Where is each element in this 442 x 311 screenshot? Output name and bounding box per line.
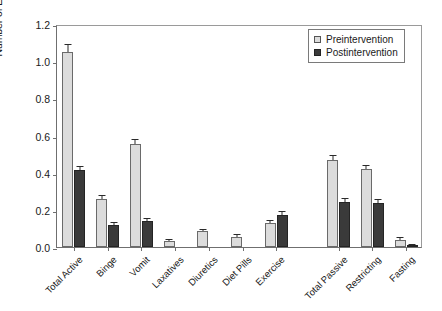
error-bar: [110, 222, 118, 225]
x-tick-mark: [108, 247, 109, 251]
chart-legend: Preintervention Postintervention: [308, 29, 405, 63]
error-bar: [98, 195, 106, 198]
y-tick-mark: [53, 212, 57, 213]
y-tick-mark: [53, 138, 57, 139]
y-tick-mark: [53, 26, 57, 27]
error-bar: [396, 237, 404, 239]
legend-swatch-preintervention-icon: [314, 36, 321, 43]
error-bar: [165, 239, 173, 241]
bar-post: [373, 203, 384, 247]
bar-pre: [231, 237, 242, 247]
bar-pre: [265, 223, 276, 247]
error-bar: [266, 220, 274, 223]
error-bar: [64, 44, 72, 52]
bar-pre: [395, 240, 406, 247]
x-tick-mark: [209, 247, 210, 251]
bar-post: [108, 225, 119, 247]
y-tick-label: 0.0: [10, 242, 50, 254]
bar-pre: [62, 52, 73, 247]
error-bar: [374, 199, 382, 204]
legend-label-postintervention: Postintervention: [326, 47, 398, 58]
bar-post: [339, 202, 350, 247]
x-tick-mark: [141, 247, 142, 251]
error-bar: [341, 198, 349, 202]
x-tick-mark: [243, 247, 244, 251]
legend-item-preintervention: Preintervention: [314, 33, 398, 46]
y-tick-label: 0.6: [10, 131, 50, 143]
error-bar: [278, 211, 286, 216]
bar-post: [142, 221, 153, 247]
x-tick-mark: [175, 247, 176, 251]
error-bar: [329, 155, 337, 160]
error-bar: [233, 234, 241, 236]
y-tick-label: 1.0: [10, 56, 50, 68]
bar-pre: [130, 144, 141, 247]
y-tick-label: 0.2: [10, 205, 50, 217]
bar-pre: [164, 241, 175, 247]
bar-post: [277, 215, 288, 247]
y-tick-label: 0.8: [10, 93, 50, 105]
error-bar: [408, 244, 416, 246]
error-bar: [362, 165, 370, 169]
bar-pre: [197, 231, 208, 247]
error-bar: [76, 166, 84, 170]
x-tick-mark: [372, 247, 373, 251]
legend-label-preintervention: Preintervention: [326, 34, 393, 45]
x-tick-mark: [406, 247, 407, 251]
error-bar: [143, 218, 151, 221]
bar-pre: [327, 160, 338, 247]
legend-item-postintervention: Postintervention: [314, 46, 398, 59]
y-tick-mark: [53, 175, 57, 176]
x-tick-mark: [74, 247, 75, 251]
error-bar: [131, 139, 139, 144]
y-tick-mark: [53, 100, 57, 101]
y-tick-mark: [53, 249, 57, 250]
y-tick-label: 0.4: [10, 168, 50, 180]
bar-pre: [96, 199, 107, 247]
y-tick-label: 1.2: [10, 19, 50, 31]
x-tick-mark: [339, 247, 340, 251]
bar-pre: [361, 169, 372, 247]
bar-chart: Number of ED Behaviors/Day 0.00.20.40.60…: [0, 0, 442, 311]
y-tick-mark: [53, 63, 57, 64]
y-axis-title: Number of ED Behaviors/Day: [0, 0, 4, 84]
x-tick-mark: [276, 247, 277, 251]
error-bar: [199, 229, 207, 232]
bar-post: [74, 170, 85, 247]
legend-swatch-postintervention-icon: [314, 49, 321, 56]
